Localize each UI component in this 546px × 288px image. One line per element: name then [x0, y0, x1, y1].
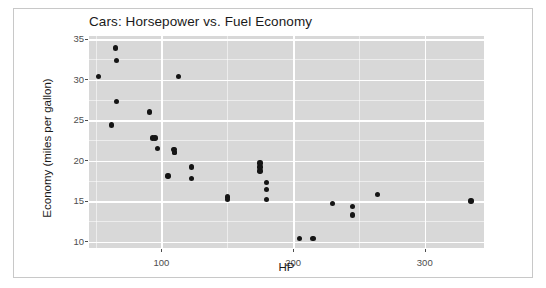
x-tick-mark: [161, 249, 162, 252]
x-tick-mark: [425, 249, 426, 252]
data-point: [468, 198, 473, 203]
data-point: [257, 160, 262, 165]
scatter-plot: Cars: Horsepower vs. Fuel Economy 101520…: [14, 9, 534, 279]
data-point: [297, 236, 302, 241]
y-axis-tick-marks: [85, 36, 89, 248]
plot-panel: [89, 36, 484, 248]
y-axis-title: Economy (miles per gallon): [41, 42, 53, 254]
data-point: [350, 204, 355, 209]
data-point: [114, 58, 119, 63]
y-tick-label: 10: [54, 237, 84, 247]
figure-frame: Cars: Horsepower vs. Fuel Economy 101520…: [13, 8, 533, 278]
data-point: [264, 180, 269, 185]
data-point: [225, 197, 230, 202]
gridline-major-horizontal: [89, 201, 484, 203]
gridline-major-vertical: [425, 36, 427, 248]
gridline-major-horizontal: [89, 39, 484, 41]
y-tick-mark: [85, 120, 88, 121]
data-point: [147, 109, 152, 114]
gridline-major-vertical: [161, 36, 163, 248]
y-tick-label: 15: [54, 196, 84, 206]
y-tick-label: 25: [54, 115, 84, 125]
plot-title: Cars: Horsepower vs. Fuel Economy: [89, 14, 489, 29]
data-point: [375, 192, 380, 197]
data-point: [152, 135, 157, 140]
data-point: [165, 173, 170, 178]
gridline-major-horizontal: [89, 242, 484, 244]
data-point: [350, 212, 355, 217]
y-axis-tick-labels: 101520253035: [52, 36, 84, 248]
y-tick-mark: [85, 201, 88, 202]
data-point: [189, 164, 194, 169]
gridline-minor-vertical: [227, 36, 228, 248]
y-tick-mark: [85, 160, 88, 161]
gridline-major-horizontal: [89, 80, 484, 82]
data-point: [264, 187, 269, 192]
y-tick-mark: [85, 39, 88, 40]
data-point: [176, 74, 181, 79]
gridline-minor-vertical: [359, 36, 360, 248]
gridline-major-horizontal: [89, 161, 484, 163]
x-axis-title: HP: [89, 261, 484, 273]
data-point: [96, 74, 101, 79]
data-point: [113, 45, 118, 50]
y-tick-mark: [85, 241, 88, 242]
y-tick-mark: [85, 79, 88, 80]
data-point: [171, 147, 176, 152]
y-tick-label: 35: [54, 34, 84, 44]
gridline-minor-vertical: [96, 36, 97, 248]
gridline-major-vertical: [293, 36, 295, 248]
gridline-major-horizontal: [89, 120, 484, 122]
y-tick-label: 30: [54, 75, 84, 85]
data-point: [155, 146, 160, 151]
y-tick-label: 20: [54, 156, 84, 166]
data-point: [330, 201, 335, 206]
data-point: [114, 99, 119, 104]
x-tick-mark: [293, 249, 294, 252]
data-point: [109, 122, 114, 127]
data-point: [310, 236, 315, 241]
